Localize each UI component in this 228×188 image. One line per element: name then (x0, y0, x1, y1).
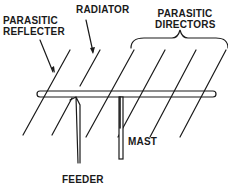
feeder (70, 97, 80, 163)
mast-label: MAST (128, 136, 157, 147)
directors-brace (131, 30, 228, 48)
radiator-pointer (86, 20, 93, 52)
directors-label-line1: PARASITIC (155, 8, 215, 19)
radiator-label: RADIATOR (76, 4, 129, 15)
reflector-label-line1: PARASITIC (3, 15, 65, 26)
reflector-pointer (40, 40, 53, 72)
radiator-element-upper (80, 50, 100, 86)
radiator-element-lower (52, 98, 72, 135)
feeder-label: FEEDER (62, 174, 104, 185)
directors-label-line2: DIRECTORS (155, 19, 215, 30)
directors-label: PARASITIC DIRECTORS (155, 8, 215, 30)
boom (37, 91, 216, 97)
reflector-label: PARASITIC REFLECTER (3, 15, 65, 37)
reflector-label-line2: REFLECTER (3, 26, 65, 37)
